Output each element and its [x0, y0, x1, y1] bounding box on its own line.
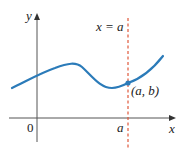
vertical-line-label: x = a — [95, 19, 124, 34]
point-a-b — [125, 80, 130, 85]
x-axis-label: x — [168, 121, 175, 136]
function-graph: y x 0 a x = a (a, b) — [0, 0, 181, 148]
y-axis-label: y — [24, 8, 32, 23]
tick-label-a: a — [117, 120, 124, 135]
y-axis-arrow-icon — [34, 13, 40, 20]
origin-label: 0 — [27, 120, 34, 135]
point-label: (a, b) — [131, 83, 159, 98]
